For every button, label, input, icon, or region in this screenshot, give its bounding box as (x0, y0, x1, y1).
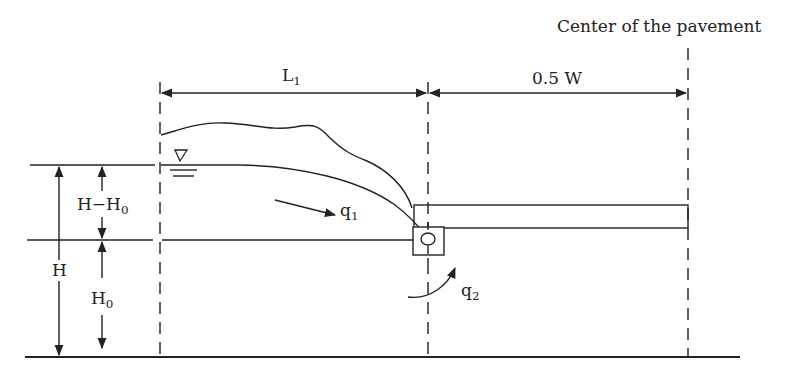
pavement-slab (414, 205, 688, 228)
q2-flow-arrow (408, 268, 455, 297)
phreatic-line (161, 165, 428, 238)
dim-l1-label: L1 (282, 67, 301, 88)
water-table-icon (170, 150, 197, 176)
dim-h-minus-h0-label: H−H0 (77, 196, 128, 217)
dim-halfwidth-label: 0.5 W (532, 70, 582, 87)
drain-pipe (421, 233, 435, 245)
q2-label: q2 (461, 282, 479, 303)
q1-flow-arrow (275, 200, 335, 215)
q1-label: q1 (340, 202, 358, 223)
dim-h-label: H (52, 260, 67, 281)
pavement-center-label: Center of the pavement (557, 18, 761, 35)
drainage-diagram (0, 0, 811, 375)
dim-h0-label: H0 (91, 290, 113, 311)
